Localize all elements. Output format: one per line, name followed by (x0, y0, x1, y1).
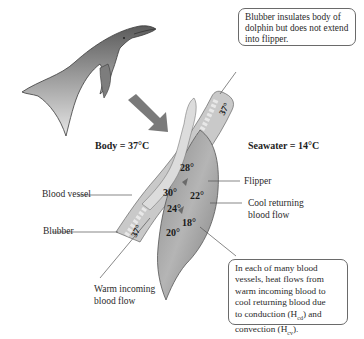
callout-line: cool returning blood due (235, 297, 341, 308)
dolphin-icon (22, 26, 156, 136)
cool-returning-label-2: blood flow (248, 210, 289, 222)
flipper-shape (157, 130, 218, 300)
seawater-temperature-label: Seawater = 14°C (248, 140, 319, 152)
heat-flow-callout: In each of many blood vessels, heat flow… (228, 259, 348, 325)
callout-line: In each of many blood (235, 263, 341, 274)
warm-incoming-label-2: blood flow (94, 296, 135, 308)
cool-returning-label-1: Cool returning (248, 198, 304, 210)
temp-20: 20° (166, 227, 180, 238)
callout-line: to conduction (Hcd) and (235, 309, 341, 324)
arrow-icon (128, 94, 168, 132)
callout-line: convection (Hcv). (235, 324, 341, 339)
body-temperature-label: Body = 37°C (95, 140, 149, 152)
warm-incoming-label-1: Warm incoming (94, 284, 155, 296)
callout-line: vessels, heat flows from (235, 274, 341, 285)
temp-22: 22° (190, 190, 204, 201)
blubber-callout: Blubber insulates body of dolphin but do… (238, 8, 356, 46)
callout-line: warm incoming blood to (235, 286, 341, 297)
temp-24: 24° (167, 203, 181, 214)
temp-18: 18° (182, 217, 196, 228)
text: to conduction (H (235, 309, 297, 319)
blood-vessel-label: Blood vessel (42, 189, 91, 201)
text: ). (293, 324, 298, 334)
temp-30: 30° (163, 187, 177, 198)
text: ) and (303, 309, 322, 319)
blubber-label: Blubber (43, 226, 74, 238)
temp-28: 28° (180, 162, 194, 173)
flipper-label: Flipper (244, 176, 271, 188)
text: convection (H (235, 324, 287, 334)
